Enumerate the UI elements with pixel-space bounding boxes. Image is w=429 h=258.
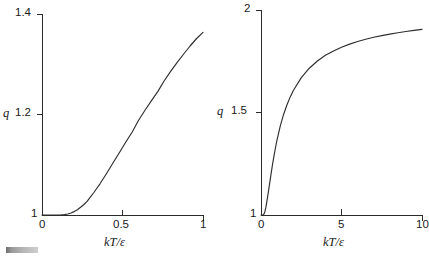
scan-edge-smudge [6,247,38,253]
y-axis-label-right: q [217,105,223,118]
y-tick-label-1-right: 1 [250,208,256,220]
curve-q-vs-kT-left [42,32,203,215]
x-tick-label-0-right: 0 [258,219,264,231]
plot-canvas-right [213,0,426,258]
x-tick-label-5-right: 5 [338,219,344,231]
y-axis-label-left: q [3,107,9,120]
y-tick-label-2-right: 2 [244,3,250,15]
chart-panel-right: 2 1.5 1 q 0 5 10 kT/ε [213,0,426,258]
y-tick-label-1.5-right: 1.5 [231,105,247,117]
chart-panel-left: 1.4 1.2 1 q 0 0.5 1 kT/ε [0,0,213,258]
x-axis-title-right: kT/ε [323,236,344,249]
y-tick-label-1.2-left: 1.2 [15,107,31,119]
x-tick-label-0.5-left: 0.5 [113,219,129,231]
y-tick-label-1.4-left: 1.4 [15,7,31,19]
x-tick-label-1-left: 1 [200,219,206,231]
x-tick-label-10-right: 10 [416,219,429,231]
curve-q-vs-kT-right [261,29,422,215]
y-tick-label-1-left: 1 [31,208,37,220]
x-tick-label-0-left: 0 [39,219,45,231]
x-axis-title-left: kT/ε [104,236,125,249]
